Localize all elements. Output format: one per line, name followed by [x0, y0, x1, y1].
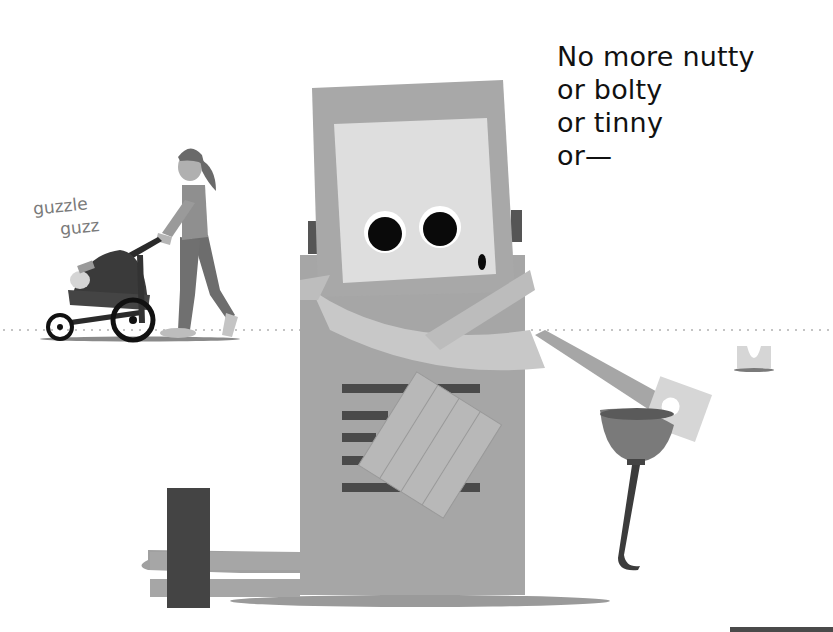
robot-illustration — [130, 75, 720, 615]
page-edge-bar — [730, 627, 833, 632]
u-bracket-prop — [732, 344, 776, 374]
verse-line-1: No more nutty — [557, 40, 755, 73]
